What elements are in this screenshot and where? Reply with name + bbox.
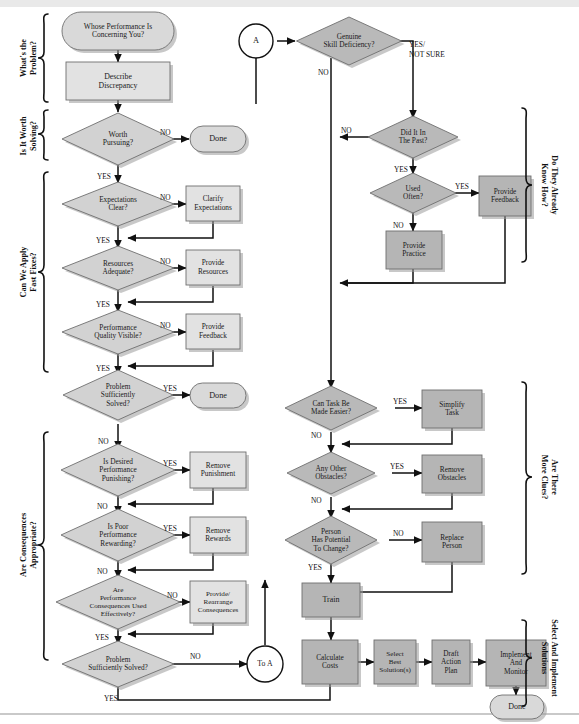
node-label-remove-obstacles: RemoveObstacles <box>438 464 467 481</box>
edge-label-yes-resources: YES <box>96 300 110 309</box>
edge-label-no-skill-deficiency: NO <box>318 68 329 77</box>
edge-label-yes-simplify: YES <box>393 397 407 406</box>
edge-label-no-did-it-past: NO <box>341 126 352 135</box>
edge-label-no-worth-pursuing: NO <box>160 128 171 137</box>
node-label-remove-rewards: RemoveRewards <box>205 525 231 542</box>
edge-label-yes-not-sure: YES/NOT SURE <box>409 40 445 59</box>
edge-label-yes-worth-pursuing: YES <box>97 172 111 181</box>
edge-label-no-obstacles: NO <box>311 496 322 505</box>
group-label-are-consequences-appropriate: Are ConsequencesAppropriate? <box>19 513 38 577</box>
group-label-is-it-worth-solving: Is It WorthSolving? <box>19 116 38 155</box>
edge-label-no-rewarding: NO <box>97 567 108 576</box>
edge-label-no-used-often: NO <box>393 221 404 230</box>
node-label-connector-a: A <box>253 36 259 45</box>
edge-label-no-simplify: NO <box>311 431 322 440</box>
edge-label-no-consequences: NO <box>167 591 178 600</box>
node-label-remove-punishment: RemovePunishment <box>201 460 235 477</box>
node-label-replace-person: ReplacePerson <box>440 532 464 549</box>
node-label-any-other-obstacles: Any OtherObstacles? <box>315 463 347 480</box>
node-label-to-a: To A <box>257 659 273 668</box>
edge-label-yes-problem2: YES <box>104 694 118 703</box>
node-label-whose-performance: Whose Performance IsConcerning You? <box>84 21 152 39</box>
edge-label-yes-used-often: YES <box>455 182 469 191</box>
edge-label-no-problem2: NO <box>190 652 201 661</box>
edge-label-yes-problem1: YES <box>163 384 177 393</box>
node-label-performance-quality-visible: PerformanceQuality Visible? <box>94 322 141 339</box>
group-label-whats-the-problem: What's theProblem? <box>19 39 38 77</box>
edge-label-no-potential: NO <box>393 529 404 538</box>
flowchart-canvas: Whose Performance IsConcerning You?Descr… <box>0 0 579 724</box>
edge-label-yes-rewarding: YES <box>163 524 177 533</box>
node-label-done-1: Done <box>209 134 227 143</box>
node-label-is-desired-performance-punishing: Is DesiredPerformancePunishing? <box>99 456 136 482</box>
edge-label-yes-punishing: YES <box>163 459 177 468</box>
edge-label-no-quality: NO <box>160 321 171 330</box>
edge-label-no-resources: NO <box>160 257 171 266</box>
node-label-can-task-be-made-easier: Can Task BeMade Easier? <box>311 398 351 415</box>
edge-label-yes-expectations: YES <box>96 236 110 245</box>
node-label-provide-feedback-left: ProvideFeedback <box>199 322 227 339</box>
node-label-used-often: UsedOften? <box>403 183 423 200</box>
flowchart-svg: Whose Performance IsConcerning You?Descr… <box>0 0 579 724</box>
node-label-provide-resources: ProvideResources <box>198 258 228 275</box>
edge-label-no-punishing: NO <box>97 502 108 511</box>
node-label-did-it-in-the-past: Did It InThe Past? <box>399 127 428 144</box>
node-label-resources-adequate: ResourcesAdequate? <box>102 258 133 275</box>
edge-label-no-expectations: NO <box>160 193 171 202</box>
edge-label-yes-did-it-past: YES <box>394 165 408 174</box>
edge-label-yes-quality: YES <box>96 364 110 373</box>
node-label-train: Train <box>322 595 339 604</box>
node-label-provide-practice: ProvidePractice <box>402 240 426 257</box>
node-label-describe-discrepancy: DescribeDiscrepancy <box>99 71 138 89</box>
edge-label-no-problem1: NO <box>98 437 109 446</box>
group-label-can-we-apply-fast-fixes: Can We ApplyFast Fixes? <box>19 246 38 298</box>
node-label-done-2: Done <box>209 390 227 399</box>
node-layer: Whose Performance IsConcerning You?Descr… <box>56 12 549 722</box>
edge-label-yes-consequences: YES <box>95 633 109 642</box>
group-label-do-they-already-know-how: Do They AlreadyKnow How? <box>540 155 559 215</box>
edge-label-yes-obstacles: YES <box>390 462 404 471</box>
edge-label-yes-potential: YES <box>308 563 322 572</box>
node-label-provide-feedback-right: ProvideFeedback <box>491 186 519 203</box>
group-label-are-there-more-clues: Are ThereMore Clues? <box>540 455 559 500</box>
